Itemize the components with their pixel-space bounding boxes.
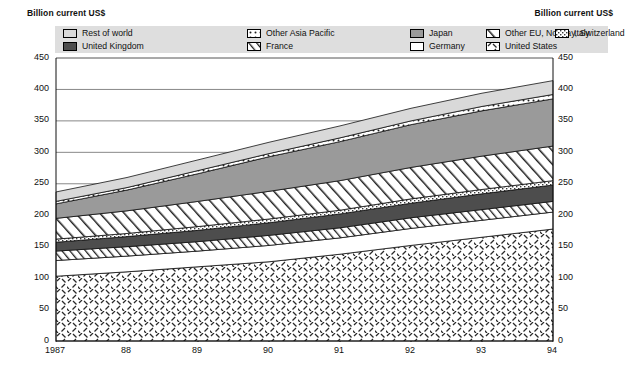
y-axis-tick-label-left: 150 [23, 241, 49, 250]
y-axis-tick-label-left: 300 [23, 147, 49, 156]
chart-legend: Rest of world Other Asia Pacific [55, 26, 608, 53]
y-axis-tick-label-right: 300 [558, 147, 584, 156]
y-axis-tick-label-left: 450 [23, 53, 49, 62]
y-axis-tick-label-right: 150 [558, 241, 584, 250]
plot-area [55, 57, 552, 340]
legend-swatch-icon [486, 42, 500, 51]
legend-item[interactable]: Japan [410, 27, 453, 40]
legend-swatch-icon [247, 29, 261, 38]
legend-item[interactable]: Germany [410, 40, 465, 53]
legend-swatch-icon [486, 29, 500, 38]
legend-item[interactable]: France [247, 40, 293, 53]
legend-item[interactable]: Other Asia Pacific [247, 27, 335, 40]
legend-swatch-icon [63, 29, 77, 38]
y-axis-tick-label-left: 350 [23, 115, 49, 124]
y-axis-tick-label-right: 0 [558, 336, 584, 345]
x-axis-tick-label: 93 [461, 346, 501, 355]
y-axis-tick-label-right: 100 [558, 273, 584, 282]
y-axis-caption-left: Billion current US$ [27, 8, 105, 18]
legend-item[interactable]: Italy [555, 27, 590, 40]
legend-swatch-icon [410, 29, 424, 38]
y-axis-tick-label-left: 100 [23, 273, 49, 282]
y-axis-tick-label-left: 400 [23, 84, 49, 93]
stacked-area-chart [55, 57, 554, 342]
x-axis-tick-label: 90 [248, 346, 288, 355]
legend-row-top: Rest of world Other Asia Pacific [55, 27, 608, 40]
legend-swatch-icon [247, 42, 261, 51]
y-axis-tick-label-left: 250 [23, 178, 49, 187]
y-axis-tick-label-right: 200 [558, 210, 584, 219]
y-axis-tick-label-right: 250 [558, 178, 584, 187]
legend-item-label: Germany [429, 42, 465, 51]
y-axis-tick-label-right: 450 [558, 53, 584, 62]
legend-item[interactable]: United Kingdom [63, 40, 144, 53]
y-axis-tick-label-right: 50 [558, 304, 584, 313]
y-axis-tick-label-right: 400 [558, 84, 584, 93]
y-axis-tick-label-left: 50 [23, 304, 49, 313]
legend-item-label: United States [505, 42, 557, 51]
y-axis-tick-label-left: 0 [23, 336, 49, 345]
x-axis-tick-label: 91 [319, 346, 359, 355]
legend-row-bottom: United Kingdom France [55, 40, 608, 53]
y-axis-caption-right: Billion current US$ [535, 8, 613, 18]
legend-item-label: Other Asia Pacific [266, 29, 335, 38]
legend-item-label: Japan [429, 29, 453, 38]
y-axis-tick-label-right: 350 [558, 115, 584, 124]
legend-item-label: Italy [574, 29, 590, 38]
legend-item-label: France [266, 42, 293, 51]
y-axis-tick-label-left: 200 [23, 210, 49, 219]
x-axis-tick-label: 88 [106, 346, 146, 355]
x-axis-tick-label: 92 [390, 346, 430, 355]
legend-item-label: United Kingdom [82, 42, 144, 51]
legend-item[interactable]: United States [486, 40, 557, 53]
legend-item-label: Rest of world [82, 29, 133, 38]
legend-swatch-icon [555, 29, 569, 38]
legend-swatch-icon [410, 42, 424, 51]
x-axis-tick-label: 94 [532, 346, 572, 355]
x-axis-tick-label: 89 [177, 346, 217, 355]
legend-swatch-icon [63, 42, 77, 51]
legend-item[interactable]: Rest of world [63, 27, 133, 40]
x-axis-tick-label: 1987 [35, 346, 75, 355]
